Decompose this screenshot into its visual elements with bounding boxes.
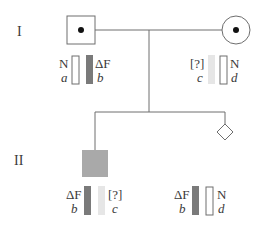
- son-allele-bar-unknown: [98, 186, 105, 215]
- fetus-diamond-symbol: [217, 124, 233, 140]
- mother-allele-bar-normal: [220, 56, 227, 84]
- father-allele-letter-2: b: [97, 71, 104, 84]
- son-allele-name-1: ΔF: [66, 188, 82, 201]
- father-allele-name-2: ΔF: [95, 57, 111, 70]
- generation-label-i: I: [17, 24, 22, 40]
- father-allele-bar-normal: [72, 56, 79, 84]
- fetus-allele-letter-1: b: [179, 202, 186, 215]
- son-allele-bar-deltaf: [84, 186, 91, 215]
- mother-allele-name-2: N: [230, 57, 239, 70]
- mother-allele-letter-2: d: [231, 71, 238, 84]
- son-allele-letter-1: b: [71, 202, 78, 215]
- fetus-allele-name-1: ΔF: [174, 188, 190, 201]
- mother-allele-name-1: [?]: [190, 57, 204, 70]
- fetus-allele-name-2: N: [217, 188, 226, 201]
- son-affected-square-symbol: [82, 150, 108, 177]
- mother-allele-letter-1: c: [197, 71, 203, 84]
- fetus-allele-bar-deltaf: [192, 186, 199, 215]
- mother-allele-bar-unknown: [208, 55, 215, 84]
- son-allele-letter-2: c: [112, 202, 118, 215]
- father-allele-name-1: N: [59, 57, 68, 70]
- father-carrier-dot-icon: [78, 27, 84, 33]
- son-allele-name-2: [?]: [108, 188, 122, 201]
- pedigree-diagram: [0, 0, 254, 228]
- mother-carrier-dot-icon: [233, 27, 239, 33]
- father-allele-letter-1: a: [61, 71, 68, 84]
- fetus-allele-bar-normal: [206, 187, 213, 215]
- generation-label-ii: II: [14, 153, 23, 169]
- father-allele-bar-deltaf: [86, 55, 93, 84]
- fetus-allele-letter-2: d: [218, 202, 225, 215]
